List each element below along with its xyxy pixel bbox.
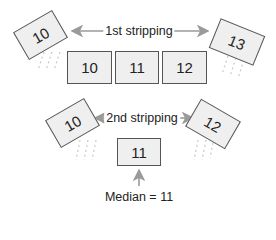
card-value: 12: [202, 112, 225, 135]
remaining-card-2: 11: [115, 51, 159, 84]
card-value: 10: [61, 111, 84, 134]
remaining-card-3: 12: [162, 51, 207, 84]
median-label: Median = 11: [103, 190, 175, 204]
second-stripping-label: 2nd stripping: [104, 111, 180, 125]
card-value: 11: [131, 144, 147, 161]
card-value: 10: [81, 59, 98, 76]
card-value: 12: [176, 59, 193, 76]
remaining-card-1: 10: [67, 51, 112, 84]
first-stripping-label: 1st stripping: [103, 24, 174, 38]
card-value: 11: [129, 59, 145, 76]
median-card: 11: [117, 138, 161, 166]
card-value: 13: [226, 31, 248, 53]
card-value: 10: [29, 23, 52, 46]
